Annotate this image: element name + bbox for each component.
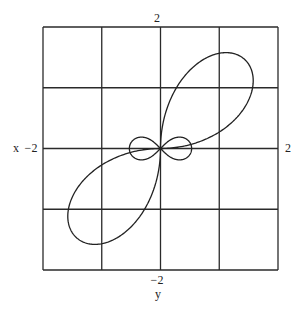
x-axis-label: x: [13, 141, 19, 155]
large-lobe-quadrant-1: [161, 53, 254, 149]
origin-point: [159, 147, 163, 151]
tick-label-bottom: −2: [151, 273, 164, 287]
tick-label-right: 2: [285, 141, 291, 155]
tick-label-left: −2: [25, 141, 38, 155]
tick-label-top: 2: [154, 11, 160, 25]
polar-curve-chart: 2 −2 y x −2 2: [0, 0, 300, 309]
large-lobe-quadrant-3: [68, 149, 161, 245]
y-axis-label: y: [155, 287, 161, 301]
